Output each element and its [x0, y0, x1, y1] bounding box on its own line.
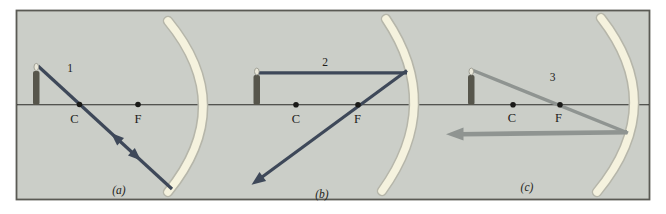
panel-caption: (b)	[315, 188, 329, 201]
candle-flame	[469, 68, 474, 75]
ray-3-reflected-parallel	[461, 132, 627, 134]
center-point-dot	[77, 102, 83, 108]
object-candle	[33, 71, 40, 105]
ray-number-label: 1	[67, 62, 73, 74]
focal-point-dot	[355, 102, 361, 108]
focal-point-dot	[557, 102, 563, 108]
candle-flame	[34, 63, 39, 70]
focal-point-label: F	[135, 112, 142, 126]
focal-point-label: F	[555, 111, 562, 125]
center-of-curvature-label: C	[70, 112, 78, 126]
center-point-dot	[293, 102, 299, 108]
center-of-curvature-label: C	[292, 112, 300, 126]
ray-diagram-figure: 1 C F (a) 2 C F (b) 3 C	[0, 0, 666, 214]
panel-caption: (c)	[521, 181, 534, 194]
focal-point-label: F	[354, 112, 361, 126]
object-candle	[468, 75, 475, 105]
center-of-curvature-label: C	[508, 111, 516, 125]
center-point-dot	[510, 102, 516, 108]
object-candle	[254, 75, 261, 105]
panel-caption: (a)	[112, 184, 126, 197]
mirror-ray-diagram-svg: 1 C F (a) 2 C F (b) 3 C	[0, 0, 666, 214]
ray-number-label: 2	[322, 56, 328, 68]
candle-flame	[254, 68, 259, 75]
focal-point-dot	[135, 102, 141, 108]
ray-number-label: 3	[550, 71, 556, 83]
